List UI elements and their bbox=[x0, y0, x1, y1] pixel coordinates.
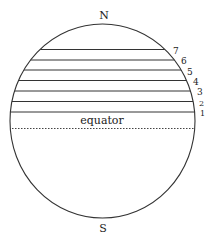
equator-label: equator bbox=[80, 114, 124, 127]
latitude-labels: 7 6 5 4 3 2 1 bbox=[173, 46, 205, 118]
latitude-label-2: 2 bbox=[199, 99, 204, 108]
latitude-label-1: 1 bbox=[200, 109, 205, 118]
north-pole-label: N bbox=[99, 9, 109, 22]
globe-diagram: N S equator 7 6 5 4 3 2 1 bbox=[0, 0, 209, 238]
latitude-label-6: 6 bbox=[181, 56, 187, 66]
latitude-label-4: 4 bbox=[193, 77, 199, 87]
latitude-label-5: 5 bbox=[187, 67, 193, 77]
latitude-label-3: 3 bbox=[197, 87, 203, 97]
south-pole-label: S bbox=[99, 222, 107, 235]
latitude-label-7: 7 bbox=[173, 46, 179, 56]
